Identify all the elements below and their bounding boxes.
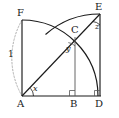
angle-label-x: x xyxy=(33,85,38,93)
right-angle-mark-B xyxy=(70,91,76,97)
point-label-D: D xyxy=(95,99,103,109)
angle-label-z: z xyxy=(95,23,99,31)
angle-label-y: y xyxy=(66,45,71,53)
length-label-1: 1 xyxy=(8,50,14,59)
point-label-F: F xyxy=(17,8,24,18)
point-label-C: C xyxy=(71,25,79,35)
point-label-A: A xyxy=(17,99,24,109)
point-label-E: E xyxy=(95,2,102,12)
point-label-B: B xyxy=(70,99,77,109)
geometry-figure: A B C D E F x y z 1 xyxy=(0,0,119,118)
right-angle-mark-D xyxy=(95,91,101,97)
